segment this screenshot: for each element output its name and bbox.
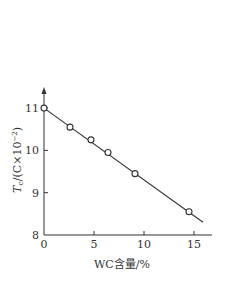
chart: 051015 891011 WC含量/% Tc/(C×10−2) [0, 0, 237, 282]
data-point [132, 171, 138, 177]
y-ticks: 891011 [25, 102, 48, 242]
data-point [67, 124, 73, 130]
data-point [105, 150, 111, 156]
y-axis-title-rest: /(C×10 [11, 142, 24, 182]
x-ticks: 051015 [41, 231, 202, 251]
y-tick-label: 10 [25, 144, 39, 157]
y-tick-label: 11 [25, 102, 39, 115]
y-axis-title: Tc/(C×10−2) [11, 127, 25, 193]
y-tick-label: 9 [32, 187, 39, 200]
y-axis-title-sup: −2 [11, 131, 19, 141]
y-tick-label: 8 [32, 229, 39, 242]
data-point [88, 137, 94, 143]
x-axis-title: WC含量/% [94, 257, 150, 271]
x-tick-label: 5 [91, 238, 98, 251]
data-point [41, 105, 47, 111]
x-tick-label: 0 [41, 238, 48, 251]
x-tick-label: 10 [137, 238, 151, 251]
x-tick-label: 15 [187, 238, 201, 251]
y-axis-arrow-icon [42, 87, 47, 94]
data-point [186, 209, 192, 215]
y-axis-title-close: ) [11, 127, 24, 131]
